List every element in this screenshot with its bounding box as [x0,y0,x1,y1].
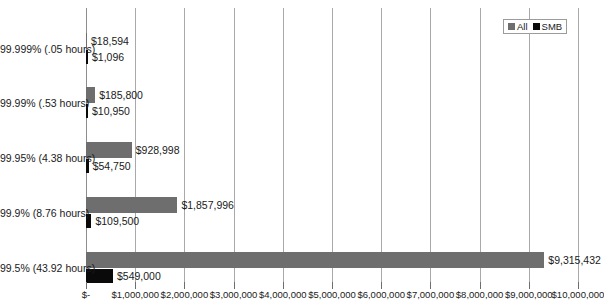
bar-label-smb-1: $10,950 [92,105,130,117]
x-tick-label-1: $1,000,000 [111,289,159,300]
x-tick-label-9: $9,000,000 [505,289,553,300]
x-tick-label-8: $8,000,000 [456,289,504,300]
gridline-9 [529,8,530,282]
bar-label-smb-0: $1,096 [92,51,124,63]
category-label-0: 99.999% (.05 hours) [0,43,82,55]
legend-swatch-all-icon [508,23,515,30]
category-label-text-3: 99.9% (8.76 hours) [0,207,89,219]
legend-label-all: All [517,22,528,32]
x-tick-10 [578,282,579,289]
category-label-text-0: 99.999% (.05 hours) [0,43,95,55]
legend-label-smb: SMB [542,22,563,32]
x-tick-label-4: $4,000,000 [259,289,307,300]
gridline-5 [332,8,333,282]
category-label-text-4: 99.5% (43.92 hours) [0,262,95,274]
x-tick-2 [184,282,185,289]
bar-label-smb-3: $109,500 [95,215,139,227]
bar-label-all-0: $18,594 [91,35,129,47]
category-label-2: 99.95% (4.38 hours) [0,152,82,164]
x-tick-label-6: $6,000,000 [357,289,405,300]
x-tick-label-2: $2,000,000 [161,289,209,300]
bar-label-smb-2: $54,750 [93,160,131,172]
bar-label-all-2: $928,998 [136,144,180,156]
bar-label-smb-4: $549,000 [117,270,161,282]
category-label-4: 99.5% (43.92 hours) [0,262,82,274]
bar-label-all-3: $1,857,996 [181,199,234,211]
category-label-3: 99.9% (8.76 hours) [0,207,82,219]
x-tick-0 [86,282,87,289]
x-tick-label-5: $5,000,000 [308,289,356,300]
bar-label-all-1: $185,800 [99,89,143,101]
x-tick-label-3: $3,000,000 [210,289,258,300]
category-label-text-1: 99.99% (.53 hours) [0,97,89,109]
gridline-6 [381,8,382,282]
bar-label-all-4: $9,315,432 [548,254,601,266]
category-label-text-2: 99.95% (4.38 hours) [0,152,95,164]
legend-swatch-smb-icon [533,23,540,30]
gridline-3 [234,8,235,282]
x-tick-9 [529,282,530,289]
plot-area: $18,594$1,096$185,800$10,950$928,998$54,… [86,8,578,282]
gridline-10 [578,8,579,282]
x-tick-3 [234,282,235,289]
gridline-2 [184,8,185,282]
x-tick-5 [332,282,333,289]
gridline-7 [430,8,431,282]
x-tick-label-7: $7,000,000 [407,289,455,300]
legend-item-smb: SMB [533,22,563,32]
x-tick-1 [135,282,136,289]
x-tick-4 [283,282,284,289]
legend-item-all: All [508,22,528,32]
gridline-4 [283,8,284,282]
x-tick-8 [480,282,481,289]
bar-all-3 [86,197,177,213]
chart-legend: All SMB [503,19,567,34]
x-tick-label-10: $10,000,000 [552,289,604,300]
gridline-8 [480,8,481,282]
x-tick-7 [430,282,431,289]
bar-all-4 [86,252,544,268]
x-tick-label-0: $- [82,289,90,300]
x-tick-6 [381,282,382,289]
category-label-1: 99.99% (.53 hours) [0,97,82,109]
